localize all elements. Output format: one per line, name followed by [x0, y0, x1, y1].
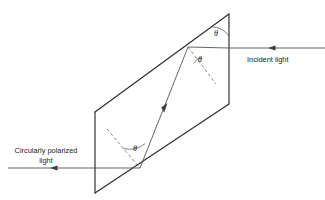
circularly-polarized-label-line1: Circularly polarized	[15, 146, 78, 155]
theta-label-lower-reflection: θ	[133, 144, 137, 153]
entry-ray-line	[188, 47, 229, 48]
theta-label-apex: θ	[214, 29, 218, 38]
circularly-polarized-label-line2: light	[39, 156, 53, 165]
incident-ray-arrowhead	[268, 45, 276, 50]
entry-ray-group	[188, 47, 229, 48]
prism-rhomb	[95, 14, 229, 193]
incident-light-label: Incident light	[247, 55, 289, 64]
internal-ray-group	[140, 47, 188, 168]
upper-normal-dashed-line	[188, 47, 216, 84]
prism-top-slant-edge	[95, 14, 229, 112]
upper-normal-group	[188, 47, 216, 84]
angle-arcs-group	[124, 27, 230, 149]
output-ray-arrowhead	[50, 165, 58, 170]
prism-bottom-slant-edge	[95, 104, 229, 193]
incident-ray-group	[229, 45, 325, 50]
diagram-canvas: θ θ θ Incident light Circularly polarize…	[0, 0, 325, 200]
theta-label-upper-reflection: θ	[198, 55, 202, 64]
output-ray-group	[8, 165, 140, 170]
optics-diagram-figure: θ θ θ Incident light Circularly polarize…	[0, 0, 325, 200]
